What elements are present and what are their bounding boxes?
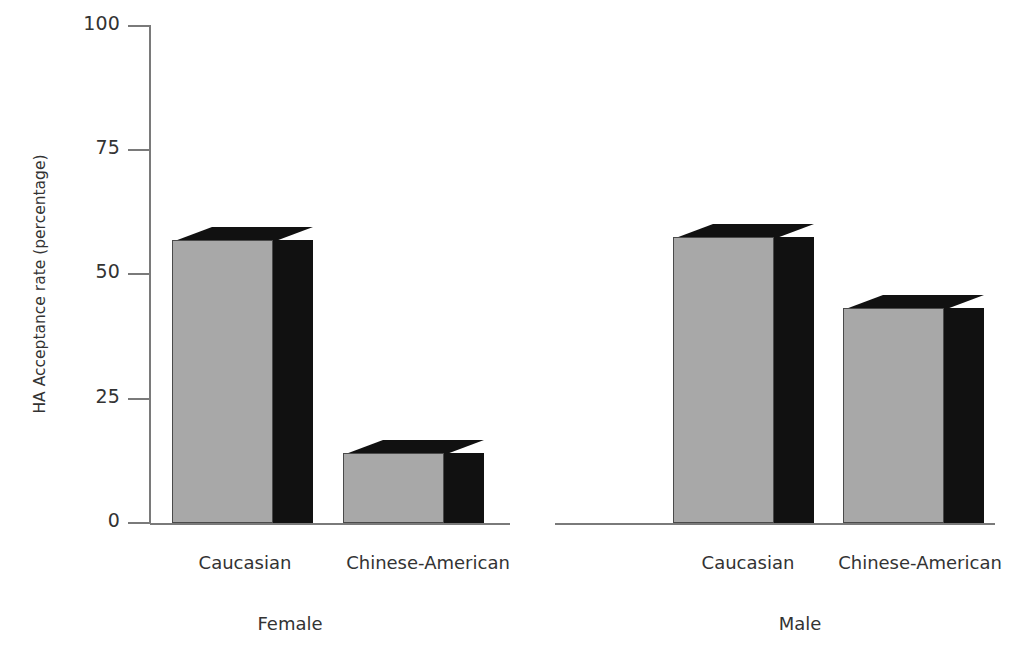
y-tick-label-75: 75 [20, 136, 120, 158]
y-tick-label-50: 50 [20, 260, 120, 282]
group-label-female: Female [190, 613, 390, 634]
bar-female-caucasian [172, 227, 313, 523]
bar-male-chinese-american [843, 295, 984, 523]
bar-front-face [673, 237, 774, 523]
y-tick-mark-50 [128, 273, 150, 275]
bar-front-face [843, 308, 944, 523]
bar-front-face [343, 453, 444, 523]
category-label-male-chinese-american: Chinese-American [790, 552, 1020, 573]
bar-side-face [273, 240, 313, 523]
bar-side-face [774, 237, 814, 523]
y-tick-label-100: 100 [20, 12, 120, 34]
y-tick-mark-75 [128, 149, 150, 151]
baseline-female-group [150, 523, 510, 525]
baseline-male-group [555, 523, 995, 525]
y-tick-mark-100 [128, 25, 150, 27]
category-label-female-chinese-american: Chinese-American [298, 552, 558, 573]
y-tick-mark-0 [128, 522, 150, 524]
bar-side-face [444, 453, 484, 523]
y-tick-label-25: 25 [20, 385, 120, 407]
bar-chart: HA Acceptance rate (percentage) 100 75 5… [0, 0, 1020, 657]
bar-male-caucasian [673, 224, 814, 523]
y-tick-label-0: 0 [20, 509, 120, 531]
bar-front-face [172, 240, 273, 523]
group-label-male: Male [700, 613, 900, 634]
y-tick-mark-25 [128, 398, 150, 400]
bar-female-chinese-american [343, 440, 484, 523]
bar-side-face [944, 308, 984, 523]
